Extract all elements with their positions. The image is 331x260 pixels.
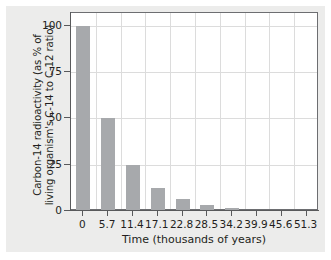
gridline-horizontal [71,26,317,27]
y-axis-line [70,12,71,211]
x-axis-tick [206,211,207,216]
x-axis-tick [281,211,282,216]
x-axis-tick [82,211,83,216]
x-axis-tick [306,211,307,216]
gridline-horizontal [71,72,317,73]
x-axis-tick [182,211,183,216]
gridline-vertical [195,13,196,209]
plot-area [70,12,318,210]
y-axis-tick-label: 75 [22,65,62,77]
gridline-vertical [269,13,270,209]
x-axis-tick [132,211,133,216]
y-axis-tick-label: 25 [22,158,62,170]
gridline-vertical [220,13,221,209]
bar [76,26,90,211]
y-axis-tick [64,164,70,165]
y-axis-tick [64,71,70,72]
bar [101,118,115,211]
y-axis-tick-label: 50 [22,111,62,123]
y-axis-tick [64,210,70,211]
bar [126,165,140,211]
y-axis-tick [64,117,70,118]
figure-container: Carbon-14 radioactivity (as % of living … [0,0,331,260]
y-axis-tick-label: 0 [22,204,62,216]
gridline-vertical [121,13,122,209]
x-axis-title: Time (thousands of years) [70,233,318,246]
gridline-vertical [170,13,171,209]
x-axis-tick [231,211,232,216]
gridline-vertical [294,13,295,209]
gridline-vertical [245,13,246,209]
bar [151,188,165,211]
x-axis-tick [157,211,158,216]
x-axis-tick [107,211,108,216]
y-axis-tick [64,25,70,26]
y-axis-tick-label: 100 [22,19,62,31]
x-axis-tick-label: 51.3 [286,218,326,230]
x-axis-tick [256,211,257,216]
gridline-vertical [145,13,146,209]
gridline-vertical [96,13,97,209]
